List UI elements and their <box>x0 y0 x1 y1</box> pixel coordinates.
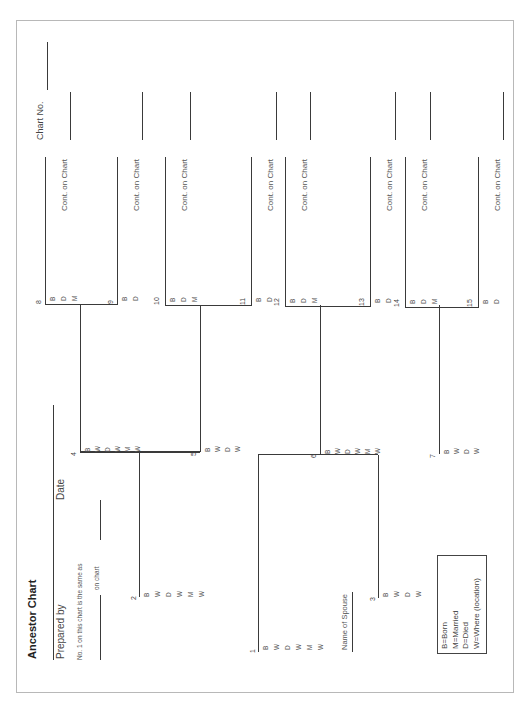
person-13-number: 13 <box>358 298 365 306</box>
person-4-codes: BWDWMW <box>84 446 141 452</box>
person-3-connector <box>258 454 378 455</box>
prepared-by-line[interactable] <box>53 405 54 660</box>
person-4-line[interactable] <box>80 305 81 452</box>
person-12-number: 12 <box>273 298 280 306</box>
legend-where: W=Where (location) <box>472 560 483 649</box>
person-1-line[interactable] <box>258 455 259 652</box>
prepared-by-label: Prepared by <box>55 605 66 659</box>
ancestor-chart-form: Ancestor Chart Prepared by Date No. 1 on… <box>0 0 531 711</box>
person-4-number: 4 <box>70 452 77 456</box>
person-7-number: 7 <box>429 454 436 458</box>
cont-line-11[interactable] <box>276 92 277 140</box>
person-8-codes: BDM <box>49 296 78 301</box>
person-15-codes: BD <box>482 299 500 304</box>
person-12-line[interactable] <box>285 157 286 307</box>
person-9-codes: BD <box>121 296 139 301</box>
person-12-codes: BDM <box>289 298 318 303</box>
person-8-number: 8 <box>35 300 42 304</box>
gen4-connector-12-13 <box>285 306 370 307</box>
person-9-line[interactable] <box>117 157 118 305</box>
cont-on-chart-9: Cont. on Chart <box>132 159 141 211</box>
same-as-chart-line[interactable] <box>100 500 101 540</box>
cont-on-chart-12: Cont. on Chart <box>300 159 309 211</box>
person-10-line[interactable] <box>165 157 166 306</box>
cont-line-14[interactable] <box>430 92 431 140</box>
chart-no-label: Chart No. <box>35 101 45 140</box>
person-7-line[interactable] <box>439 305 440 454</box>
person-9-number: 9 <box>107 300 114 304</box>
cont-line-15[interactable] <box>503 92 504 140</box>
cont-line-12[interactable] <box>310 92 311 140</box>
person-13-line[interactable] <box>370 157 371 307</box>
spouse-line[interactable] <box>352 592 353 652</box>
person-11-number: 11 <box>239 298 246 305</box>
legend-died: D=Died <box>461 560 472 649</box>
person-11-line[interactable] <box>251 157 252 306</box>
gen4-connector-10-11 <box>165 305 251 306</box>
cont-line-13[interactable] <box>395 92 396 140</box>
cont-on-chart-8: Cont. on Chart <box>60 159 69 211</box>
same-as-person-line[interactable] <box>100 595 101 660</box>
same-as-text: No. 1 on this chart is the same as <box>76 564 83 660</box>
gen4-connector-8-9 <box>45 304 117 305</box>
cont-on-chart-13: Cont. on Chart <box>385 159 394 211</box>
person-5-number: 5 <box>190 452 197 456</box>
person-14-number: 14 <box>393 299 400 307</box>
person-1-codes: BWDWMW <box>262 644 324 650</box>
chart-no-line[interactable] <box>47 42 48 90</box>
cont-on-chart-11: Cont. on Chart <box>266 159 275 211</box>
person-1-number: 1 <box>249 649 256 653</box>
spouse-label: Name of Spouse <box>340 594 349 650</box>
legend-married: M=Married <box>451 560 462 649</box>
person-15-number: 15 <box>466 299 473 307</box>
person-8-line[interactable] <box>45 157 46 305</box>
person-15-line[interactable] <box>478 157 479 308</box>
date-label: Date <box>55 479 66 500</box>
person-2-codes: BWDWMW <box>143 591 205 597</box>
person-11-codes: BD <box>255 297 273 302</box>
person-14-line[interactable] <box>405 157 406 308</box>
person-2-line[interactable] <box>139 453 140 597</box>
cont-on-chart-10: Cont. on Chart <box>180 159 189 211</box>
person-3-line[interactable] <box>378 455 379 598</box>
person-5-codes: BWDW <box>204 446 241 452</box>
person-3-codes: BWDW <box>382 591 422 597</box>
person-6-number: 6 <box>310 454 317 458</box>
cont-on-chart-14: Cont. on Chart <box>420 159 429 211</box>
person-10-number: 10 <box>153 297 160 305</box>
cont-line-9[interactable] <box>142 92 143 140</box>
person-3-number: 3 <box>369 597 376 601</box>
person-10-codes: BDM <box>169 297 198 302</box>
person-7-codes: BWDW <box>443 448 480 454</box>
person-14-codes: BDM <box>409 299 438 304</box>
cont-on-chart-15: Cont. on Chart <box>493 159 502 211</box>
gen4-connector-14-15 <box>405 307 478 308</box>
person-2-number: 2 <box>130 596 137 600</box>
on-chart-text: on chart <box>93 567 100 591</box>
person-2-connector <box>80 452 200 453</box>
cont-line-10[interactable] <box>190 92 191 140</box>
person-6-line[interactable] <box>320 305 321 454</box>
person-5-line[interactable] <box>200 305 201 452</box>
legend-box: B=Born M=Married D=Died W=Where (locatio… <box>437 555 487 654</box>
legend-born: B=Born <box>440 560 451 649</box>
person-13-codes: BD <box>374 298 392 303</box>
chart-title: Ancestor Chart <box>26 580 38 659</box>
cont-line-8[interactable] <box>70 92 71 140</box>
person-6-codes: BWDWMW <box>324 448 381 454</box>
